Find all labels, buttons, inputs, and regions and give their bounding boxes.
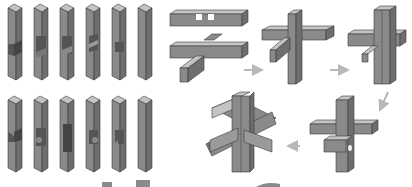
assembly-step-4 [310,96,378,172]
assembly-step-5 [206,92,276,172]
assembly-step-3 [348,6,406,84]
pieces-bottom-row [8,96,152,172]
piece-1 [8,4,22,80]
piece-3 [60,4,74,80]
partial-piece [136,180,150,187]
piece-11 [112,96,126,172]
assembly-step-2 [262,10,334,84]
arrow-down-left [380,92,388,110]
piece-6 [138,4,152,80]
piece-9 [60,96,74,172]
partial-piece [102,182,112,187]
partial-piece [256,183,280,187]
piece-7 [8,96,22,172]
piece-5 [112,4,126,80]
piece-2 [34,4,48,80]
assembly-step-1 [170,10,248,82]
piece-10 [86,96,100,172]
piece-8 [34,96,48,172]
diagram-canvas [0,0,412,187]
piece-12 [138,96,152,172]
piece-4 [86,4,100,80]
pieces-top-row [8,4,152,80]
burr-puzzle-diagram [0,0,412,187]
